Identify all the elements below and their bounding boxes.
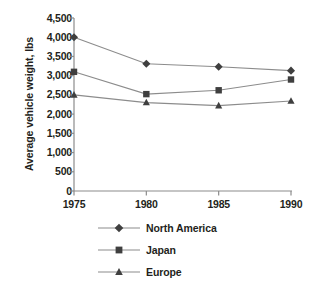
legend-item-japan[interactable]: Japan xyxy=(96,241,266,263)
series-europe xyxy=(70,91,294,108)
chart-legend: North AmericaJapanEurope xyxy=(96,219,266,285)
data-point-marker xyxy=(142,60,150,68)
legend-label: Europe xyxy=(146,266,182,278)
legend-marker-square-icon xyxy=(96,241,142,259)
chart-container: Average vehicle weight, lbs 05001,0001,5… xyxy=(0,0,310,287)
series-north-america xyxy=(70,33,295,75)
legend-marker xyxy=(116,247,123,254)
data-point-marker xyxy=(143,91,149,97)
legend-item-north-america[interactable]: North America xyxy=(96,219,266,241)
data-point-marker xyxy=(287,97,294,104)
legend-item-europe[interactable]: Europe xyxy=(96,263,266,285)
legend-label: Japan xyxy=(146,244,176,256)
legend-label: North America xyxy=(146,222,217,234)
legend-marker-diamond-icon xyxy=(96,219,142,237)
data-point-marker xyxy=(288,76,294,82)
data-point-marker xyxy=(70,33,78,41)
data-point-marker xyxy=(215,87,221,93)
data-point-marker xyxy=(215,63,223,71)
legend-marker xyxy=(115,224,124,233)
series-line xyxy=(74,95,291,106)
series-line xyxy=(74,72,291,94)
data-point-marker xyxy=(71,69,77,75)
legend-marker-triangle-icon xyxy=(96,263,142,281)
data-point-marker xyxy=(287,67,295,75)
series-line xyxy=(74,37,291,70)
series-japan xyxy=(71,69,294,98)
